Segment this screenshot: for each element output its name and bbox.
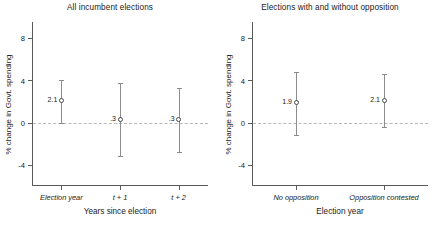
- y-axis-title-text: % change in Govt. spending: [4, 54, 13, 154]
- x-axis-tick: [296, 186, 297, 190]
- y-axis-tick-label: 0: [241, 119, 245, 128]
- point-value-label: .3: [169, 115, 175, 122]
- x-axis-line: [252, 185, 428, 186]
- panel-title: Elections with and without opposition: [220, 3, 440, 12]
- point-value-label: 1.9: [282, 98, 292, 105]
- point-estimate-marker[interactable]: [382, 98, 387, 103]
- y-axis-tick-label: 8: [241, 34, 245, 43]
- x-axis-tick: [179, 186, 180, 190]
- x-axis-title: Years since election: [32, 207, 208, 216]
- panel-all-incumbent-elections: All incumbent elections % change in Govt…: [0, 0, 220, 227]
- y-axis-tick-label: 8: [21, 34, 25, 43]
- y-axis-line: [252, 22, 253, 186]
- ci-lower-cap: [382, 127, 387, 128]
- panel-elections-with-without-opposition: Elections with and without opposition % …: [220, 0, 440, 227]
- y-axis-title: % change in Govt. spending: [222, 22, 234, 186]
- ci-upper-cap: [294, 72, 299, 73]
- y-axis-tick-label: 4: [241, 76, 245, 85]
- y-axis-tick-label: -4: [18, 161, 25, 170]
- y-axis-tick: 8: [248, 38, 252, 39]
- y-axis-title: % change in Govt. spending: [2, 22, 14, 186]
- ci-upper-cap: [59, 80, 64, 81]
- y-axis-tick-label: 0: [21, 119, 25, 128]
- panel-title: All incumbent elections: [0, 3, 220, 12]
- x-axis-title: Election year: [252, 207, 428, 216]
- ci-upper-cap: [382, 74, 387, 75]
- x-axis-tick: [120, 186, 121, 190]
- plot-area: 840-4No opposition1.9Opposition conteste…: [252, 22, 428, 186]
- x-axis-tick: [61, 186, 62, 190]
- point-estimate-marker[interactable]: [176, 117, 181, 122]
- point-value-label: 2.1: [370, 96, 380, 103]
- y-axis-tick-label: -4: [238, 161, 245, 170]
- x-axis-tick-label: t + 1: [113, 193, 128, 202]
- ci-upper-cap: [177, 88, 182, 89]
- y-axis-tick: 0: [28, 123, 32, 124]
- x-axis-tick-label: t + 2: [171, 193, 186, 202]
- x-axis-tick: [384, 186, 385, 190]
- ci-lower-cap: [177, 152, 182, 153]
- y-axis-tick: -4: [28, 165, 32, 166]
- x-axis-tick-label: Opposition contested: [349, 193, 418, 202]
- plot-area: 840-4Election year2.1t + 1.3t + 2.3: [32, 22, 208, 186]
- ci-lower-cap: [118, 156, 123, 157]
- y-axis-tick-label: 4: [21, 76, 25, 85]
- ci-upper-cap: [118, 83, 123, 84]
- point-estimate-marker[interactable]: [118, 117, 123, 122]
- x-axis-tick-label: Election year: [40, 193, 83, 202]
- point-value-label: .3: [110, 115, 116, 122]
- x-axis-tick-label: No opposition: [273, 193, 318, 202]
- ci-lower-cap: [294, 135, 299, 136]
- y-axis-tick: 8: [28, 38, 32, 39]
- point-value-label: 2.1: [48, 96, 58, 103]
- figure-two-panel-coefficient-plot: All incumbent elections % change in Govt…: [0, 0, 440, 227]
- y-axis-line: [32, 22, 33, 186]
- y-axis-tick: 4: [248, 80, 252, 81]
- y-axis-title-text: % change in Govt. spending: [224, 54, 233, 154]
- y-axis-tick: 4: [28, 80, 32, 81]
- ci-lower-cap: [59, 123, 64, 124]
- zero-reference-line: [253, 123, 428, 124]
- y-axis-tick: 0: [248, 123, 252, 124]
- y-axis-tick: -4: [248, 165, 252, 166]
- point-estimate-marker[interactable]: [294, 100, 299, 105]
- point-estimate-marker[interactable]: [59, 98, 64, 103]
